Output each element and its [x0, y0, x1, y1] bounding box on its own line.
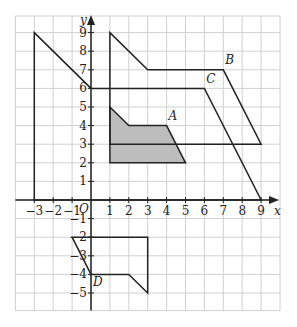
y-tick-label: −5 — [69, 286, 87, 300]
shape-label-b: B — [224, 53, 234, 67]
y-tick-label: 9 — [79, 26, 87, 40]
x-tick-label: −2 — [44, 204, 62, 218]
x-tick-label: 5 — [182, 204, 190, 218]
x-tick-label: 2 — [125, 204, 133, 218]
y-tick-label: 7 — [79, 63, 87, 77]
y-tick-label: 5 — [79, 100, 87, 114]
x-tick-label: 9 — [257, 204, 265, 218]
y-tick-label: 2 — [79, 156, 87, 170]
x-tick-label: 4 — [163, 204, 171, 218]
y-tick-label: −3 — [69, 249, 87, 263]
y-tick-label: 8 — [79, 44, 87, 58]
x-tick-label: 8 — [238, 204, 246, 218]
x-tick-label: 3 — [144, 204, 152, 218]
y-tick-label: 3 — [79, 137, 87, 151]
coordinate-grid-diagram: ABCDxyO−3−2−1123456789987654321−1−2−3−4−… — [0, 0, 297, 327]
y-tick-label: −1 — [69, 212, 87, 226]
y-tick-label: 4 — [79, 119, 87, 133]
shape-label-a: A — [167, 109, 177, 123]
shape-label-c: C — [206, 72, 215, 86]
x-tick-label: 6 — [201, 204, 209, 218]
x-axis-arrow-icon — [269, 196, 279, 204]
y-tick-label: 6 — [79, 81, 87, 95]
x-axis-label: x — [274, 204, 281, 218]
y-tick-label: −2 — [69, 230, 87, 244]
y-tick-label: 1 — [79, 174, 87, 188]
shape-label-d: D — [92, 275, 103, 289]
y-tick-label: −4 — [69, 267, 87, 281]
x-tick-label: −3 — [25, 204, 43, 218]
x-tick-label: 7 — [219, 204, 227, 218]
x-tick-label: 1 — [106, 204, 114, 218]
